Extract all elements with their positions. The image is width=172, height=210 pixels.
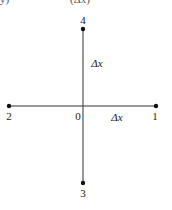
point-4-label: 4 xyxy=(80,15,86,26)
point-2-dot xyxy=(7,104,11,108)
point-3-label: 3 xyxy=(80,188,86,199)
vertical-spacing-label: Δx xyxy=(91,58,102,69)
point-4-dot xyxy=(81,27,85,31)
point-3-dot xyxy=(81,181,85,185)
point-2-label: 2 xyxy=(6,111,12,122)
point-1-label: 1 xyxy=(152,111,158,122)
center-label: 0 xyxy=(75,111,81,122)
point-1-dot xyxy=(154,104,158,108)
horizontal-spacing-label: Δx xyxy=(111,112,122,123)
stencil-diagram xyxy=(0,0,172,210)
